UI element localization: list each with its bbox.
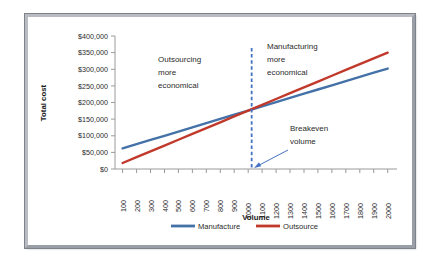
y-tick-label: $100,000 <box>78 131 108 140</box>
x-tick-label: 1800 <box>356 203 365 219</box>
x-tick-label: 1700 <box>342 203 351 219</box>
y-axis-tick-labels: $400,000 $350,000 $300,000 $250,000 $200… <box>78 32 108 174</box>
annotation-outsourcing-line2: more <box>158 68 177 77</box>
x-tick-label: 900 <box>230 200 239 212</box>
annotation-manufacturing-line2: more <box>267 55 286 64</box>
x-tick-label: 1500 <box>314 203 323 219</box>
breakeven-arrow-icon <box>254 150 288 168</box>
x-axis-title: Volume <box>242 213 270 222</box>
chart-plot-area: $400,000 $350,000 $300,000 $250,000 $200… <box>28 17 412 245</box>
x-tick-label: 700 <box>202 200 211 212</box>
y-tick-label: $200,000 <box>78 98 108 107</box>
line-chart-svg: $400,000 $350,000 $300,000 $250,000 $200… <box>28 17 418 251</box>
x-tick-label: 1400 <box>300 203 309 219</box>
annotation-breakeven: Breakeven volume <box>254 124 328 168</box>
y-tick-label: $350,000 <box>78 48 108 57</box>
x-tick-label: 400 <box>161 200 170 212</box>
x-tick-label: 800 <box>216 200 225 212</box>
annotation-outsourcing: Outsourcing more economical <box>158 55 201 90</box>
chart-frame: $400,000 $350,000 $300,000 $250,000 $200… <box>25 14 415 248</box>
annotation-breakeven-line2: volume <box>290 137 316 146</box>
x-tick-label: 2000 <box>384 203 393 219</box>
annotation-manufacturing-line1: Manufacturing <box>267 42 318 51</box>
y-axis-title: Total cost <box>39 84 48 121</box>
y-tick-label: $250,000 <box>78 82 108 91</box>
annotation-breakeven-line1: Breakeven <box>290 124 328 133</box>
annotation-manufacturing: Manufacturing more economical <box>267 42 318 77</box>
y-tick-label: $400,000 <box>78 32 108 41</box>
y-tick-label: $150,000 <box>78 115 108 124</box>
x-tick-label: 1300 <box>286 203 295 219</box>
legend-label-manufacture: Manufacture <box>198 222 240 231</box>
annotation-manufacturing-line3: economical <box>267 68 308 77</box>
y-tick-label: $50,000 <box>82 148 108 157</box>
x-tick-label: 1600 <box>328 203 337 219</box>
y-tick-label: $300,000 <box>78 65 108 74</box>
x-tick-label: 200 <box>133 200 142 212</box>
x-tick-label: 1900 <box>370 203 379 219</box>
x-tick-label: 500 <box>174 200 183 212</box>
annotation-outsourcing-line3: economical <box>158 81 199 90</box>
x-tick-label: 300 <box>147 200 156 212</box>
chart-legend: Manufacture Outsource <box>171 222 318 231</box>
x-tick-label: 1200 <box>272 203 281 219</box>
annotation-outsourcing-line1: Outsourcing <box>158 55 201 64</box>
x-tick-label: 600 <box>188 200 197 212</box>
x-axis-ticks <box>123 169 388 173</box>
x-tick-label: 100 <box>119 200 128 212</box>
legend-label-outsource: Outsource <box>283 222 318 231</box>
y-axis-ticks <box>111 36 115 169</box>
y-tick-label: $0 <box>100 165 108 174</box>
